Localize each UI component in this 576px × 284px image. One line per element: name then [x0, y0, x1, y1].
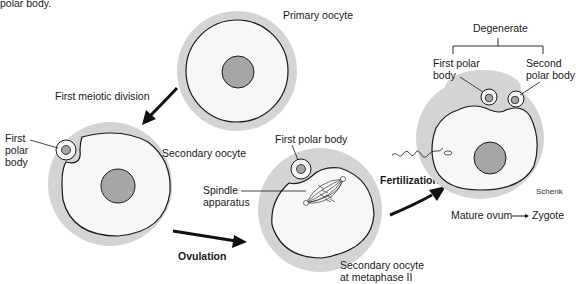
metaphase-polar-label: First polar body [275, 133, 348, 145]
zygote-label: Zygote [532, 209, 564, 221]
zygote-first-polar-label-2: body [433, 69, 457, 81]
caption-fragment: polar body. [0, 0, 51, 9]
ovulation-arrow-icon [173, 231, 247, 248]
metaphase-label-1: Secondary oocyte [340, 259, 424, 271]
mature-ovum-label: Mature ovum [451, 209, 513, 221]
oogenesis-diagram: polar body. Primary oocyte First meiotic… [0, 0, 576, 284]
primary-oocyte-label: Primary oocyte [283, 9, 353, 21]
fertilization-arrow-icon [390, 186, 446, 215]
ovulation-label: Ovulation [178, 250, 226, 262]
second-polar-label-1: Second [526, 57, 562, 69]
zygote-first-polar-label-1: First polar [433, 57, 480, 69]
metaphase-oocyte [258, 148, 382, 272]
degenerate-bracket [453, 38, 543, 54]
secondary-oocyte [48, 122, 172, 246]
first-polar-label-2: polar [5, 144, 29, 156]
spindle-label-1: Spindle [203, 184, 238, 196]
spindle-label-2: apparatus [203, 196, 250, 208]
secondary-oocyte-label: Secondary oocyte [162, 147, 246, 159]
first-polar-label-3: body [5, 156, 29, 168]
degenerate-label: Degenerate [473, 22, 528, 34]
signature: Schenk [536, 187, 564, 196]
first-meiotic-division-label: First meiotic division [55, 90, 150, 102]
polar-body-leader [30, 140, 58, 148]
first-polar-label-1: First [5, 132, 25, 144]
metaphase-label-2: at metaphase II [340, 271, 412, 283]
primary-oocyte [177, 11, 297, 131]
second-polar-label-2: polar body [526, 69, 576, 81]
second-polar-leader [520, 82, 540, 95]
